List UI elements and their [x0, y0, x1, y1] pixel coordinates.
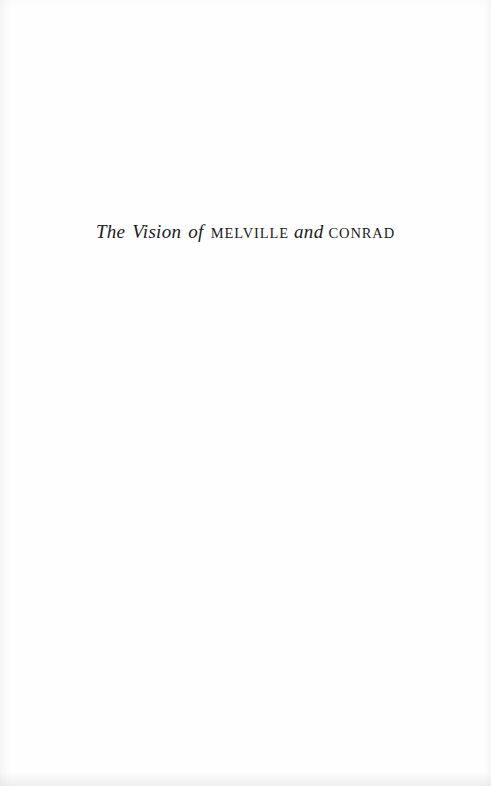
title-word-vision: Vision	[132, 221, 181, 242]
author-name-melville: MELVILLE	[211, 225, 289, 241]
half-title-line: TheVisionofMELVILLEandCONRAD	[0, 222, 491, 241]
scan-edge-shadow-right	[483, 0, 491, 786]
scan-edge-shadow-top	[0, 0, 491, 8]
book-page: TheVisionofMELVILLEandCONRAD	[0, 0, 491, 786]
scan-edge-shadow-bottom	[0, 772, 491, 786]
title-word-of: of	[188, 221, 203, 242]
title-word-the: The	[96, 221, 125, 242]
author-name-conrad: CONRAD	[328, 225, 395, 241]
title-word-and: and	[294, 221, 323, 242]
scan-edge-shadow-left	[0, 0, 10, 786]
